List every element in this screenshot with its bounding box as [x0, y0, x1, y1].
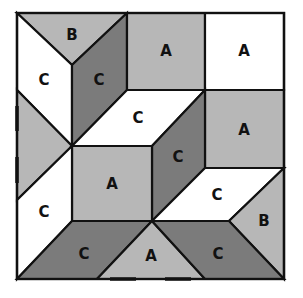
piece-label: C — [211, 186, 222, 204]
piece-label: A — [145, 247, 157, 265]
piece-label: A — [238, 121, 250, 139]
piece-label: B — [66, 26, 77, 44]
piece-label: C — [78, 245, 89, 263]
quilt-block-diagram: BCCAACACACCBCAC — [0, 0, 303, 298]
piece-label: A — [106, 175, 118, 193]
piece-label: C — [93, 71, 104, 89]
piece-label: C — [38, 203, 49, 221]
piece-label: A — [160, 42, 172, 60]
piece-label: A — [238, 42, 250, 60]
piece-label: C — [172, 148, 183, 166]
piece-label: C — [212, 245, 223, 263]
piece-label: C — [132, 109, 143, 127]
piece-label: C — [38, 71, 49, 89]
piece-label: B — [258, 212, 269, 230]
